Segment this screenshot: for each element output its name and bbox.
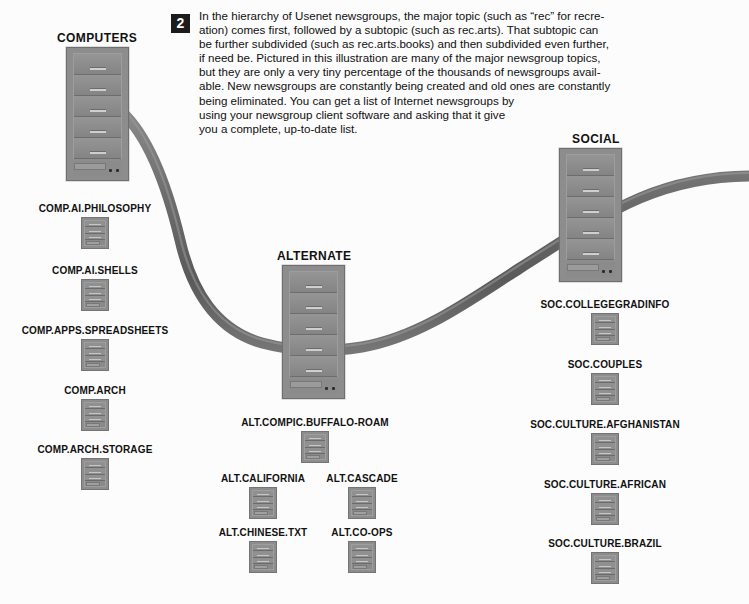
- callout-line: being eliminated. You can get a list of …: [199, 94, 589, 108]
- tower-caption-alternate: ALTERNATE: [277, 249, 351, 263]
- node-label-soc-culture-african: SOC.CULTURE.AFRICAN: [505, 479, 705, 490]
- node-label-soc-couples: SOC.COUPLES: [505, 359, 705, 370]
- node-label-soc-collegegradinfo: SOC.COLLEGEGRADINFO: [505, 299, 705, 310]
- node-icon-alt-cascade[interactable]: [348, 487, 376, 519]
- mini-front-panel: [85, 481, 105, 486]
- node-icon-alt-california[interactable]: [249, 487, 277, 519]
- tower-bay: [567, 239, 614, 260]
- node-label-comp-apps-spreadsheets: COMP.APPS.SPREADSHEETS: [0, 325, 190, 336]
- callout-number-badge: 2: [171, 14, 190, 33]
- tower-social[interactable]: [559, 148, 622, 282]
- node-label-comp-ai-philosophy: COMP.AI.PHILOSOPHY: [0, 203, 190, 214]
- mini-front-panel: [352, 510, 372, 515]
- callout-block: 2 In the hierarchy of Usenet newsgroups,…: [171, 9, 683, 136]
- node-icon-alt-chinese-txt[interactable]: [249, 541, 277, 573]
- mini-front-panel: [595, 396, 615, 401]
- node-icon-comp-ai-shells[interactable]: [81, 279, 109, 311]
- mini-front-panel: [595, 336, 615, 341]
- node-label-alt-cascade: ALT.CASCADE: [310, 473, 414, 484]
- callout-line: ation) comes first, followed by a subtop…: [199, 23, 683, 37]
- tower-bay: [290, 314, 337, 335]
- mini-front-panel: [305, 454, 325, 459]
- tower-bay: [290, 356, 337, 377]
- node-icon-alt-co-ops[interactable]: [348, 541, 376, 573]
- power-led-icon: [325, 387, 328, 390]
- mini-front-panel: [595, 575, 615, 580]
- tower-bay: [567, 197, 614, 218]
- mini-bays: [351, 490, 373, 516]
- mini-front-panel: [85, 302, 105, 307]
- power-led-icon: [602, 270, 605, 273]
- mini-bays: [594, 555, 616, 581]
- tower-front-panel: [566, 262, 615, 277]
- callout-paragraph: In the hierarchy of Usenet newsgroups, t…: [199, 9, 683, 136]
- tower-bay: [567, 218, 614, 239]
- node-icon-soc-culture-brazil[interactable]: [591, 552, 619, 584]
- tower-drive-slot: [290, 381, 322, 388]
- callout-line: able. New newsgroups are constantly bein…: [199, 79, 683, 93]
- activity-led-icon: [116, 169, 119, 172]
- tower-caption-computers: COMPUTERS: [57, 31, 137, 45]
- mini-front-panel: [253, 510, 273, 515]
- node-label-alt-compic-buffalo-roam: ALT.COMPIC.BUFFALO-ROAM: [215, 417, 415, 428]
- tower-front-panel: [289, 379, 338, 394]
- tower-bay: [74, 75, 121, 96]
- callout-line: using your newsgroup client software and…: [199, 108, 589, 122]
- mini-bays: [594, 496, 616, 522]
- mini-front-panel: [253, 564, 273, 569]
- tower-bays: [289, 271, 338, 377]
- tower-bay: [290, 293, 337, 314]
- node-label-comp-arch-storage: COMP.ARCH.STORAGE: [0, 444, 190, 455]
- mini-front-panel: [85, 240, 105, 245]
- node-label-soc-culture-brazil: SOC.CULTURE.BRAZIL: [505, 538, 705, 549]
- tower-alternate[interactable]: [282, 265, 345, 399]
- mini-bays: [84, 461, 106, 487]
- tower-bay: [290, 335, 337, 356]
- mini-bays: [252, 490, 274, 516]
- node-icon-comp-apps-spreadsheets[interactable]: [81, 339, 109, 371]
- node-icon-comp-arch[interactable]: [81, 399, 109, 431]
- mini-bays: [84, 220, 106, 246]
- tower-bay: [74, 117, 121, 138]
- mini-bays: [594, 376, 616, 402]
- illustration-page: COMPUTERS ALTERNATE SOCI: [0, 0, 749, 604]
- node-label-comp-ai-shells: COMP.AI.SHELLS: [0, 265, 190, 276]
- callout-line: but they are only a very tiny percentage…: [199, 65, 683, 79]
- tower-bay: [74, 96, 121, 117]
- tower-front-panel: [73, 161, 122, 176]
- mini-bays: [84, 402, 106, 428]
- tower-bays: [73, 53, 122, 159]
- mini-front-panel: [352, 564, 372, 569]
- power-led-icon: [109, 169, 112, 172]
- node-icon-comp-ai-philosophy[interactable]: [81, 217, 109, 249]
- callout-line: if need be. Pictured in this illustratio…: [199, 51, 683, 65]
- tower-bay: [74, 138, 121, 159]
- node-icon-soc-culture-african[interactable]: [591, 493, 619, 525]
- callout-line: In the hierarchy of Usenet newsgroups, t…: [199, 9, 683, 23]
- callout-line: you a complete, up-to-date list.: [199, 122, 683, 136]
- mini-front-panel: [85, 422, 105, 427]
- node-icon-alt-compic-buffalo-roam[interactable]: [301, 431, 329, 463]
- callout-line: be further subdivided (such as rec.arts.…: [199, 37, 683, 51]
- node-icon-soc-culture-afghanistan[interactable]: [591, 433, 619, 465]
- node-label-soc-culture-afghanistan: SOC.CULTURE.AFGHANISTAN: [505, 419, 705, 430]
- tower-bays: [566, 154, 615, 260]
- activity-led-icon: [609, 270, 612, 273]
- node-icon-soc-collegegradinfo[interactable]: [591, 313, 619, 345]
- mini-front-panel: [595, 516, 615, 521]
- node-label-alt-co-ops: ALT.CO-OPS: [310, 527, 414, 538]
- node-icon-comp-arch-storage[interactable]: [81, 458, 109, 490]
- node-icon-soc-couples[interactable]: [591, 373, 619, 405]
- mini-bays: [84, 282, 106, 308]
- mini-front-panel: [595, 456, 615, 461]
- mini-bays: [594, 436, 616, 462]
- mini-bays: [351, 544, 373, 570]
- node-label-comp-arch: COMP.ARCH: [0, 385, 190, 396]
- tower-bay: [74, 54, 121, 75]
- tower-bay: [567, 176, 614, 197]
- activity-led-icon: [332, 387, 335, 390]
- tower-drive-slot: [567, 264, 599, 271]
- tower-computers[interactable]: [66, 47, 129, 181]
- tower-bay: [290, 272, 337, 293]
- mini-bays: [84, 342, 106, 368]
